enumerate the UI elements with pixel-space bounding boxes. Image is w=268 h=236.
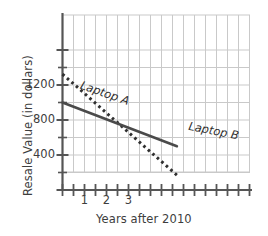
x-tick-label: 3 — [122, 193, 136, 207]
x-tick-label: 2 — [100, 193, 114, 207]
y-tick-label: 1200 — [21, 77, 55, 91]
y-tick-label: 800 — [21, 112, 55, 126]
axis-lines — [59, 13, 253, 190]
x-axis-title: Years after 2010 — [96, 212, 192, 226]
series-line-laptop-b — [63, 103, 177, 147]
x-tick-label: 1 — [78, 193, 92, 207]
axis-ticks — [57, 50, 250, 196]
resale-value-line-chart: Resale Value (in dollars) Years after 20… — [0, 0, 268, 236]
y-tick-label: 400 — [21, 147, 55, 161]
